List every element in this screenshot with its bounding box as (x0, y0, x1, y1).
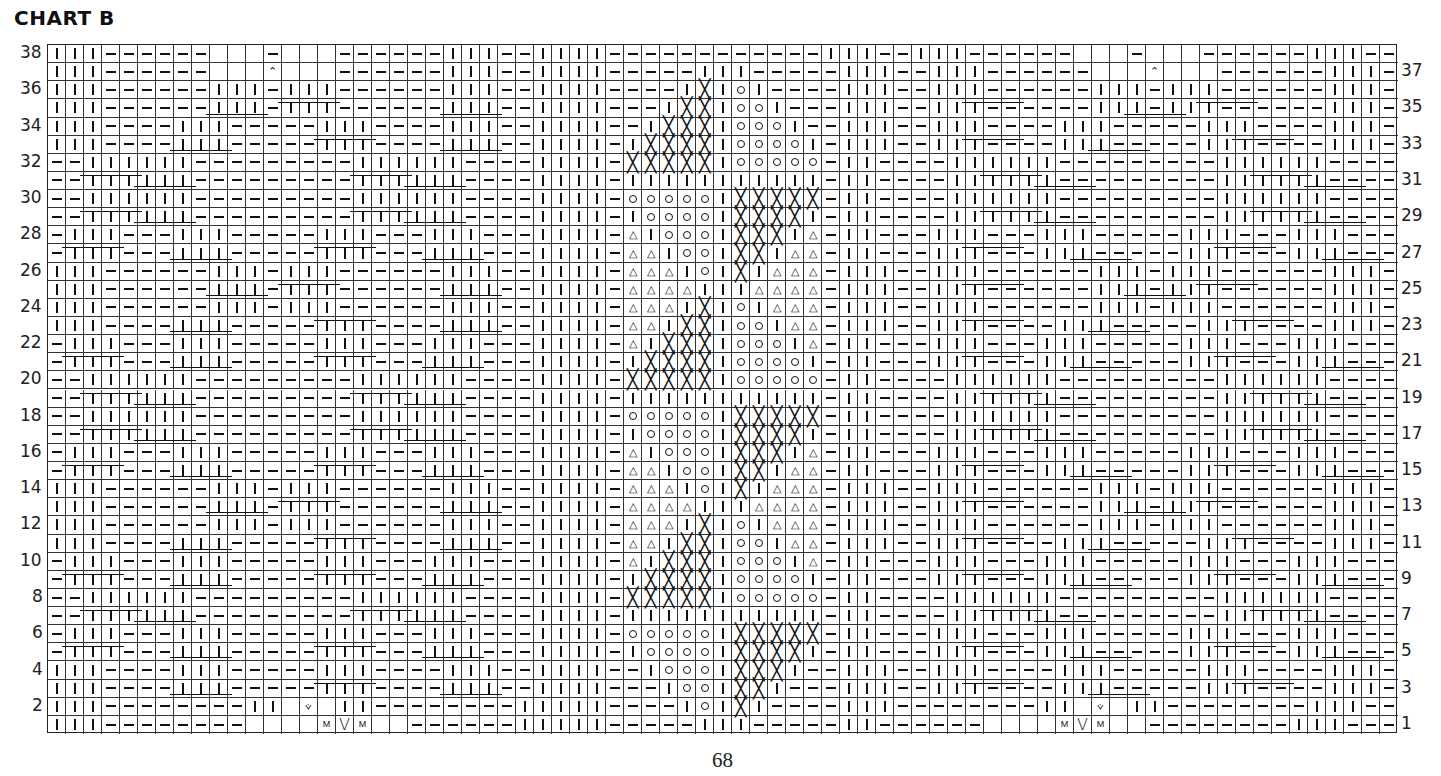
cable-line (962, 139, 1024, 140)
purl-cell (1254, 553, 1272, 571)
circle-cell (678, 444, 696, 462)
cable-line (1196, 284, 1258, 285)
triangle-cell: △ (786, 462, 804, 480)
purl-cell (1146, 317, 1164, 335)
knit-cell (858, 716, 876, 734)
knit-cell (444, 553, 462, 571)
purl-cell (1164, 172, 1182, 190)
purl-cell (336, 516, 354, 534)
purl-cell (462, 390, 480, 408)
make-one-cell: M (1092, 716, 1110, 734)
purl-cell (480, 390, 498, 408)
purl-cell (1272, 625, 1290, 643)
purl-cell (408, 99, 426, 117)
purl-cell (1308, 99, 1326, 117)
knit-cell (1326, 625, 1344, 643)
purl-cell (1146, 244, 1164, 262)
purl-cell (372, 553, 390, 571)
knit-cell (1308, 625, 1326, 643)
knit-cell (930, 45, 948, 63)
purl-cell (1380, 589, 1398, 607)
knit-cell (930, 353, 948, 371)
knit-cell (318, 480, 336, 498)
knit-cell (552, 462, 570, 480)
knit-cell (1038, 353, 1056, 371)
purl-cell (498, 607, 516, 625)
knit-cell (858, 208, 876, 226)
purl-cell (120, 136, 138, 154)
knit-cell (570, 480, 588, 498)
purl-cell (1380, 426, 1398, 444)
knit-cell (714, 571, 732, 589)
knit-cell (966, 154, 984, 172)
knit-cell (750, 480, 768, 498)
row-number-right: 21 (1401, 350, 1423, 370)
purl-cell (912, 625, 930, 643)
purl-cell (1146, 353, 1164, 371)
circle-cell (750, 553, 768, 571)
knit-cell (1272, 190, 1290, 208)
knit-cell (714, 263, 732, 281)
purl-cell (1110, 118, 1128, 136)
purl-cell (1110, 136, 1128, 154)
knit-cell (462, 643, 480, 661)
knit-cell (534, 661, 552, 679)
knit-cell (138, 589, 156, 607)
knit-cell (210, 118, 228, 136)
knit-cell (192, 353, 210, 371)
purl-cell (606, 680, 624, 698)
purl-cell (1002, 226, 1020, 244)
knit-cell (1344, 81, 1362, 99)
purl-cell (102, 516, 120, 534)
knit-cell (84, 408, 102, 426)
knit-cell (552, 607, 570, 625)
cable-line (1088, 331, 1150, 332)
purl-cell (498, 589, 516, 607)
purl-cell (1254, 625, 1272, 643)
purl-cell (174, 81, 192, 99)
cable-line (278, 501, 340, 502)
knit-cell (678, 607, 696, 625)
purl-cell (822, 535, 840, 553)
knit-cell (858, 317, 876, 335)
purl-cell (1236, 444, 1254, 462)
cable-line (1304, 186, 1366, 187)
no-cell (282, 698, 300, 716)
purl-cell (606, 716, 624, 734)
purl-cell (876, 371, 894, 389)
purl-cell (48, 390, 66, 408)
purl-cell (1272, 335, 1290, 353)
purl-cell (804, 680, 822, 698)
purl-cell (606, 462, 624, 480)
cable-line (170, 150, 232, 151)
knit-cell (876, 317, 894, 335)
knit-cell (66, 535, 84, 553)
knit-cell (174, 244, 192, 262)
cable-line (1214, 465, 1276, 466)
knit-cell (1362, 661, 1380, 679)
knit-cell (444, 371, 462, 389)
purl-cell (498, 371, 516, 389)
purl-cell (300, 390, 318, 408)
cable-line (1214, 247, 1276, 248)
knit-cell (552, 480, 570, 498)
purl-cell (822, 498, 840, 516)
row-number-left: 8 (32, 586, 43, 606)
knit-cell (426, 426, 444, 444)
knit-cell (48, 299, 66, 317)
knit-cell (480, 99, 498, 117)
knit-cell (102, 371, 120, 389)
purl-cell (210, 716, 228, 734)
knit-cell (552, 244, 570, 262)
purl-cell (264, 136, 282, 154)
no-cell (1038, 716, 1056, 734)
knit-cell (588, 643, 606, 661)
purl-cell (1110, 408, 1128, 426)
purl-cell (1380, 118, 1398, 136)
knit-cell (570, 516, 588, 534)
circle-cell (732, 571, 750, 589)
knit-cell (354, 190, 372, 208)
knit-cell (102, 190, 120, 208)
purl-cell (228, 553, 246, 571)
purl-cell (606, 136, 624, 154)
